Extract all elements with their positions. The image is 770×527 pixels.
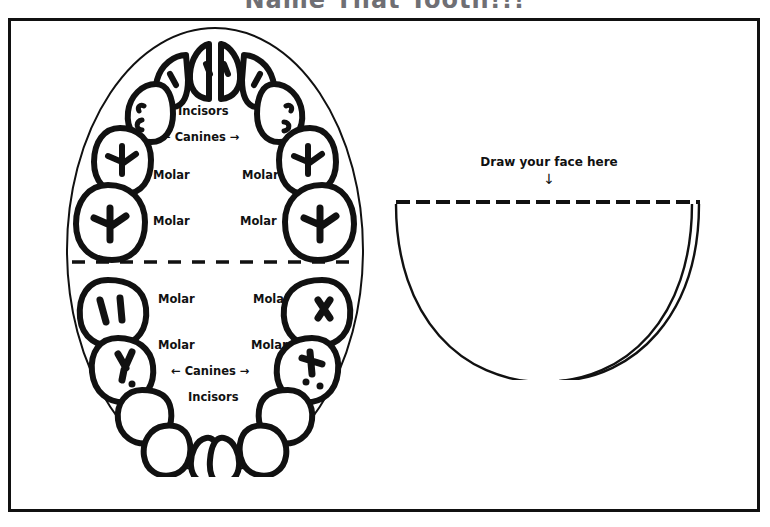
draw-your-face-panel[interactable] <box>384 10 714 380</box>
face-outline-svg <box>384 10 714 380</box>
lower-canines-label: ← Canines → <box>171 364 249 378</box>
mouth-diagram-svg <box>60 22 370 477</box>
upper-left-molar-1-label: Molar <box>153 168 190 182</box>
lower-incisors-label: Incisors <box>188 390 239 404</box>
face-outline-bowl <box>396 204 692 380</box>
worksheet-page: Name That Tooth!!! <box>0 0 770 527</box>
mouth-arch-diagram: Incisors ← Canines → Molar Molar Molar M… <box>60 22 370 477</box>
lower-right-molar-2-label: Molar <box>251 338 288 352</box>
lower-left-molar-1-label: Molar <box>158 292 195 306</box>
tooth-lower-incisor-right-central <box>210 438 239 477</box>
lower-right-molar-1-label: Molar <box>253 292 290 306</box>
upper-incisors-label: Incisors <box>178 104 229 118</box>
upper-right-molar-2-label: Molar <box>240 214 277 228</box>
tooth-lower-incisor-right-lateral <box>240 426 287 476</box>
lower-left-molar-2-label: Molar <box>158 338 195 352</box>
upper-canines-label: ← Canines → <box>161 130 239 144</box>
tooth-lower-incisor-left-lateral <box>144 426 191 476</box>
upper-left-molar-2-label: Molar <box>153 214 190 228</box>
upper-right-molar-1-label: Molar <box>242 168 279 182</box>
